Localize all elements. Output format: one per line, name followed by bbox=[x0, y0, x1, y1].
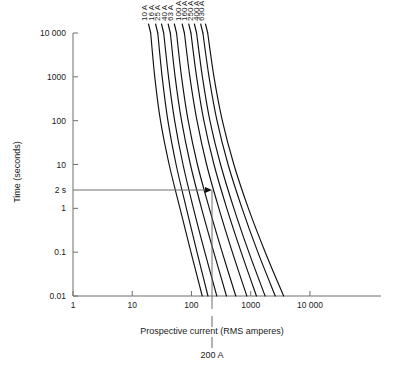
curve-leader-100-a bbox=[182, 24, 184, 33]
y-tick-label: 1000 bbox=[47, 72, 66, 82]
x-tick-label: 1000 bbox=[241, 300, 260, 310]
time-marker-label: 2 s bbox=[55, 185, 66, 195]
curve-leader-10-a bbox=[148, 24, 150, 33]
curve-leader-250-a bbox=[194, 24, 196, 33]
curve-leader-400-a bbox=[201, 24, 203, 33]
curve-series-group bbox=[151, 33, 284, 296]
y-tick-label: 0.01 bbox=[49, 291, 66, 301]
y-tick-label: 0.1 bbox=[54, 247, 66, 257]
x-tick-label: 1 bbox=[71, 300, 76, 310]
curve-leader-630-a bbox=[206, 24, 208, 33]
axes-group bbox=[73, 33, 381, 296]
x-tick-label: 10 bbox=[127, 300, 137, 310]
chart-canvas: 0.010.1110100100010 000 110100100010 000… bbox=[0, 0, 406, 367]
curve-leader-40-a bbox=[168, 24, 170, 33]
curve-leader-16-a bbox=[156, 24, 158, 33]
time-marker-arrowhead bbox=[205, 187, 212, 193]
y-axis-ticks: 0.010.1110100100010 000 bbox=[40, 28, 78, 301]
y-tick-label: 1 bbox=[61, 203, 66, 213]
x-tick-label: 100 bbox=[184, 300, 198, 310]
y-tick-label: 100 bbox=[52, 116, 66, 126]
operating-point-annotation bbox=[73, 187, 212, 348]
curve-leader-63-a bbox=[174, 24, 176, 33]
current-marker-label: 200 A bbox=[200, 350, 223, 360]
curve-label-630-a: 630 A bbox=[197, 0, 206, 21]
curve-labels-group: 10 A16 A25 A40 A63 A100 A160 A250 A400 A… bbox=[140, 0, 208, 33]
curve-630-a bbox=[208, 33, 284, 296]
x-tick-label: 10 000 bbox=[297, 300, 323, 310]
fuse-time-current-characteristic-chart: 0.010.1110100100010 000 110100100010 000… bbox=[0, 0, 406, 367]
y-tick-label: 10 000 bbox=[40, 28, 66, 38]
y-tick-label: 10 bbox=[57, 160, 67, 170]
curve-leader-25-a bbox=[162, 24, 164, 33]
curve-leader-160-a bbox=[189, 24, 191, 33]
y-axis-title: Time (seconds) bbox=[12, 141, 22, 203]
x-axis-title: Prospective current (RMS amperes) bbox=[140, 326, 284, 336]
x-axis-ticks: 110100100010 000 bbox=[71, 291, 324, 310]
